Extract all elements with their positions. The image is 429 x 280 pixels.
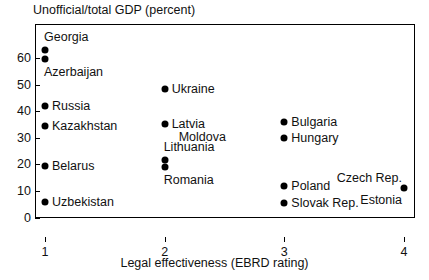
scatter-chart-figure: Unofficial/total GDP (percent) 010203040… bbox=[0, 0, 429, 280]
data-point-label: Czech Rep. bbox=[337, 172, 402, 185]
data-point-label: Lithuania bbox=[164, 141, 215, 154]
data-point-marker bbox=[281, 118, 288, 125]
data-point-label: Hungary bbox=[291, 131, 338, 144]
data-point-marker bbox=[401, 185, 408, 192]
data-point-label: Uzbekistan bbox=[52, 195, 114, 208]
data-point-marker bbox=[42, 47, 49, 54]
x-axis-title: Legal effectiveness (EBRD rating) bbox=[0, 256, 429, 270]
data-point-marker bbox=[161, 121, 168, 128]
data-point-marker bbox=[42, 102, 49, 109]
data-point-label: Ukraine bbox=[172, 82, 215, 95]
data-point-marker bbox=[161, 85, 168, 92]
data-point-label: Bulgaria bbox=[291, 115, 337, 128]
data-points-layer: GeorgiaAzerbaijanRussiaKazakhstanBelarus… bbox=[0, 0, 429, 280]
data-point-marker bbox=[281, 199, 288, 206]
data-point-label: Slovak Rep. bbox=[291, 196, 358, 209]
data-point-marker bbox=[281, 182, 288, 189]
data-point-label: Estonia bbox=[360, 194, 402, 207]
data-point-label: Kazakhstan bbox=[52, 119, 117, 132]
data-point-marker bbox=[42, 198, 49, 205]
data-point-label: Romania bbox=[164, 173, 214, 186]
data-point-marker bbox=[161, 163, 168, 170]
data-point-label: Georgia bbox=[44, 31, 88, 44]
data-point-marker bbox=[42, 122, 49, 129]
data-point-marker bbox=[281, 134, 288, 141]
data-point-label: Poland bbox=[291, 179, 330, 192]
data-point-label: Azerbaijan bbox=[44, 66, 103, 79]
data-point-marker bbox=[42, 56, 49, 63]
data-point-label: Russia bbox=[52, 99, 90, 112]
data-point-label: Belarus bbox=[52, 159, 94, 172]
data-point-marker bbox=[42, 162, 49, 169]
